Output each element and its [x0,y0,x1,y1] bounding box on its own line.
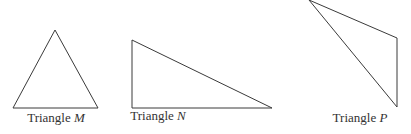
triangle-p-label-prefix: Triangle [333,110,377,125]
triangle-n-label-prefix: Triangle [130,108,174,123]
triangle-m-label-prefix: Triangle [27,110,71,125]
triangle-p-label-letter: P [379,110,387,125]
triangle-m-shape [13,30,98,108]
triangle-m-label: Triangle M [27,110,85,126]
triangle-p-label: Triangle P [333,110,388,126]
triangle-p-shape [309,0,397,107]
triangle-n-label: Triangle N [130,108,186,124]
triangle-n-shape [132,40,272,108]
triangle-m-label-letter: M [74,110,85,125]
triangle-n-label-letter: N [177,108,186,123]
